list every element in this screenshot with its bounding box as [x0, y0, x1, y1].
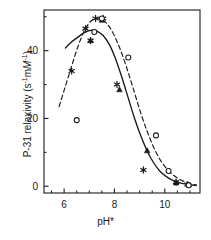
x-tick-label: 6: [61, 199, 67, 210]
x-tick-label: 10: [159, 199, 171, 210]
y-axis-label-suffix: ): [22, 51, 33, 54]
data-point-circle-open: [74, 118, 79, 123]
axes-frame: [44, 10, 200, 193]
data-point-asterisk: [114, 82, 119, 88]
data-point-circle-open: [153, 133, 158, 138]
data-point-circle-open: [99, 16, 104, 21]
x-axis-label: pH*: [0, 216, 211, 227]
x-tick-label: 8: [112, 199, 118, 210]
data-point-circle-open: [126, 55, 131, 60]
minor-ticks: [44, 17, 190, 193]
dashed-fit-curve: [59, 18, 196, 185]
y-axis-label-italic-m: M: [22, 61, 33, 69]
data-point-circle-open: [186, 183, 191, 188]
y-axis-label-mid: m: [22, 69, 33, 77]
major-ticks: [44, 51, 165, 193]
chart-figure: 681002040 P-31 relaxivity (s-1mM-1) pH*: [0, 0, 211, 240]
data-point-triangle: [144, 148, 150, 153]
tick-labels: 681002040: [27, 45, 171, 210]
y-tick-label: 0: [32, 181, 38, 192]
y-axis-label-sup1: -1: [21, 77, 28, 83]
y-axis-label-sup2: -1: [21, 54, 28, 60]
data-point-circle-open: [166, 168, 171, 173]
solid-fit-curve: [65, 30, 196, 185]
data-markers: [69, 15, 191, 187]
y-axis-label: P-31 relaxivity (s-1mM-1): [21, 24, 33, 184]
fit-curves: [59, 18, 196, 185]
data-point-circle-open: [92, 30, 97, 35]
data-point-asterisk: [141, 167, 146, 173]
y-axis-label-prefix: P-31 relaxivity (s: [22, 83, 33, 157]
filled-triangle-series: [88, 17, 192, 187]
